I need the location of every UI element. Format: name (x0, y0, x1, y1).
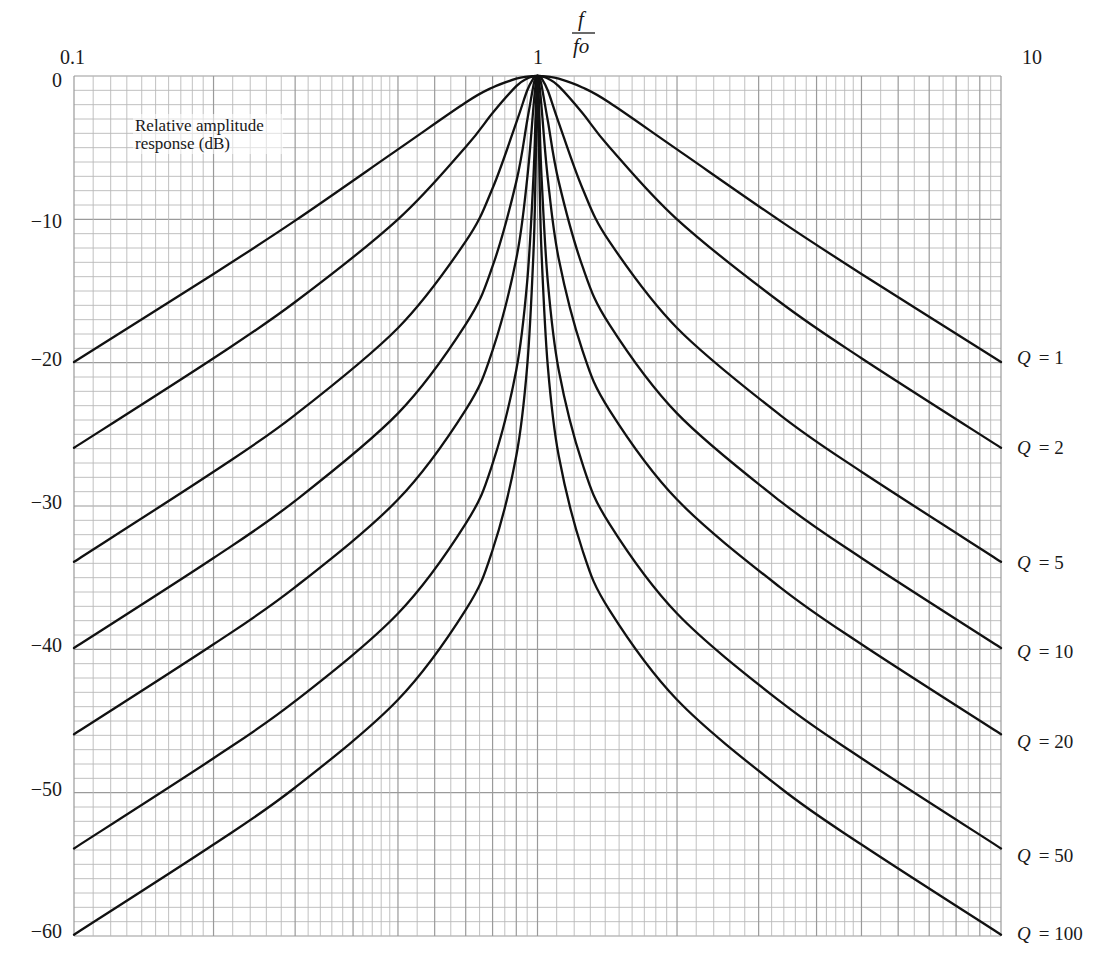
legend-label-q1: Q= 1 (1017, 347, 1064, 368)
y-tick-label-minus-20: −20 (31, 348, 62, 370)
y-axis-title: Relative amplitude response (dB) (133, 114, 283, 154)
log-grid (74, 76, 1001, 936)
legend-label-q5: Q= 5 (1017, 552, 1064, 573)
legend-label-q10: Q= 10 (1017, 641, 1073, 662)
legend-label-q2: Q= 2 (1017, 437, 1064, 458)
x-tick-label-1: 1 (533, 46, 543, 68)
y-tick-label-minus-10: −10 (31, 210, 62, 232)
x-axis-title: f fo (572, 7, 595, 58)
y-tick-label-minus-40: −40 (31, 634, 62, 656)
x-tick-label-10: 10 (1022, 46, 1042, 68)
y-tick-label-0: 0 (52, 69, 62, 91)
legend-label-q100: Q= 100 (1017, 923, 1083, 944)
legend-q: Q= 1 Q= 2 Q= 5 Q= 10 Q= 20 Q= 50 Q= 100 (1017, 347, 1083, 944)
y-axis-title-line2: response (dB) (135, 134, 230, 153)
x-tick-label-0.1: 0.1 (60, 46, 85, 68)
x-axis-numerator: f (578, 7, 587, 31)
y-tick-label-minus-50: −50 (31, 778, 62, 800)
y-axis-title-line1: Relative amplitude (135, 116, 264, 135)
y-tick-label-minus-60: −60 (31, 920, 62, 942)
legend-label-q20: Q= 20 (1017, 731, 1073, 752)
y-tick-label-minus-30: −30 (31, 491, 62, 513)
legend-label-q50: Q= 50 (1017, 845, 1073, 866)
x-axis-denominator: fo (573, 34, 589, 58)
bandpass-response-chart: 0.1 1 10 f fo 0 −10 −20 −30 −40 −50 −60 … (0, 0, 1119, 969)
